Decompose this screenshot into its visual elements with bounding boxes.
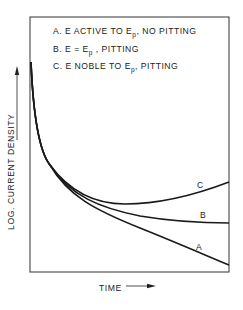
curve-label-a: A	[196, 242, 202, 252]
curve-label-b: B	[200, 210, 206, 220]
curve-label-c: C	[197, 180, 203, 190]
x-axis-label: TIME	[99, 283, 122, 293]
x-arrow-head-icon	[147, 284, 156, 288]
legend-a-text: A. E ACTIVE TO E	[53, 26, 132, 36]
legend-item-b: B. E = Ep , PITTING	[53, 42, 196, 60]
legend-b-suffix: , PITTING	[93, 44, 139, 54]
curve-b	[31, 62, 229, 223]
y-arrow-head-icon	[15, 66, 19, 75]
legend-a-suffix: , NO PITTING	[136, 26, 196, 36]
legend: A. E ACTIVE TO Ep, NO PITTING B. E = Ep …	[53, 24, 196, 77]
legend-item-a: A. E ACTIVE TO Ep, NO PITTING	[53, 24, 196, 42]
legend-c-suffix: , PITTING	[135, 61, 178, 71]
curve-a	[31, 62, 229, 265]
legend-b-text: B. E = E	[53, 44, 89, 54]
y-axis-label: LOG. CURRENT DENSITY	[6, 114, 16, 230]
legend-item-c: C. E NOBLE TO Ep, PITTING	[53, 59, 196, 77]
legend-c-text: C. E NOBLE TO E	[53, 61, 131, 71]
